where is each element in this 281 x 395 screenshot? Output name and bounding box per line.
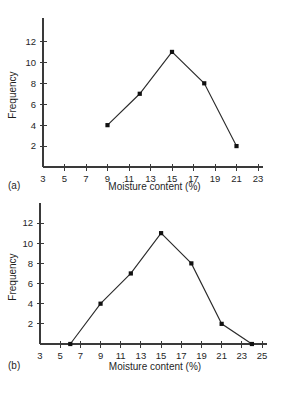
frequency-polygon-chart-a: 24681012357911131517192123Moisture conte…	[0, 0, 281, 198]
y-axis-tick-label: 10	[25, 57, 36, 68]
x-axis-tick-label: 11	[116, 350, 126, 361]
y-axis-title: Frequency	[7, 71, 18, 118]
data-series-line	[70, 233, 252, 344]
x-axis-tick-label: 7	[83, 173, 88, 184]
data-point-marker	[170, 50, 174, 54]
plot-area: 24681012357911131517192123Moisture conte…	[7, 18, 263, 192]
x-axis-tick-label: 13	[136, 350, 147, 361]
chart-panel-a: 24681012357911131517192123Moisture conte…	[0, 0, 281, 198]
y-axis-tick-label: 2	[31, 140, 36, 151]
y-axis-tick-label: 12	[25, 36, 36, 47]
y-axis-tick-label: 12	[22, 217, 33, 228]
frequency-polygon-chart-b: 2468101235791113151719212325Moisture con…	[0, 197, 281, 395]
plot-area: 2468101235791113151719212325Moisture con…	[7, 203, 267, 372]
y-axis-tick-label: 2	[28, 318, 33, 329]
panel-label: (a)	[8, 180, 20, 191]
x-axis-tick-label: 17	[176, 350, 187, 361]
chart-panel-b: 2468101235791113151719212325Moisture con…	[0, 197, 281, 395]
x-axis-tick-label: 3	[40, 173, 45, 184]
x-axis-tick-label: 19	[210, 173, 221, 184]
x-axis-tick-label: 21	[231, 173, 242, 184]
data-point-marker	[202, 81, 206, 85]
data-point-marker	[105, 123, 109, 127]
x-axis-tick-label: 7	[78, 350, 83, 361]
x-axis-title: Moisture content (%)	[108, 181, 200, 192]
x-axis-tick-label: 9	[98, 350, 103, 361]
x-axis-title: Moisture content (%)	[109, 361, 201, 372]
y-axis-tick-label: 4	[28, 298, 33, 309]
y-axis-tick-label: 8	[31, 78, 36, 89]
data-point-marker	[220, 322, 224, 326]
data-point-marker	[250, 342, 254, 346]
data-point-marker	[189, 261, 193, 265]
x-axis-tick-label: 21	[216, 350, 227, 361]
data-point-marker	[98, 302, 102, 306]
y-axis-tick-label: 6	[28, 278, 33, 289]
y-axis-tick-label: 4	[31, 120, 36, 131]
data-point-marker	[159, 231, 163, 235]
y-axis-tick-label: 8	[28, 258, 33, 269]
x-axis-tick-label: 23	[237, 350, 248, 361]
data-point-marker	[138, 92, 142, 96]
x-axis-tick-label: 19	[196, 350, 207, 361]
x-axis-tick-label: 25	[257, 350, 268, 361]
x-axis-tick-label: 5	[58, 350, 63, 361]
y-axis-tick-label: 6	[31, 99, 36, 110]
data-point-marker	[68, 342, 72, 346]
data-point-marker	[234, 144, 238, 148]
data-series-line	[108, 52, 237, 146]
x-axis-tick-label: 23	[253, 173, 264, 184]
x-axis-tick-label: 3	[37, 350, 42, 361]
panel-label: (b)	[8, 360, 20, 371]
y-axis-title: Frequency	[7, 253, 18, 300]
x-axis-tick-label: 5	[62, 173, 67, 184]
y-axis-tick-label: 10	[22, 238, 33, 249]
x-axis-tick-label: 15	[156, 350, 167, 361]
data-point-marker	[129, 271, 133, 275]
